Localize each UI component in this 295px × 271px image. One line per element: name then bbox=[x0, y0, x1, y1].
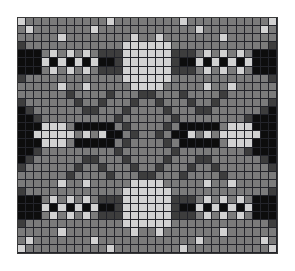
grid-cell bbox=[237, 220, 245, 228]
grid-cell bbox=[220, 50, 228, 58]
grid-cell bbox=[139, 99, 147, 107]
grid-cell bbox=[34, 50, 42, 58]
grid-cell bbox=[204, 164, 212, 172]
grid-cell bbox=[164, 188, 172, 196]
grid-cell bbox=[220, 123, 228, 131]
grid-cell bbox=[269, 237, 277, 245]
grid-cell bbox=[58, 156, 66, 164]
grid-cell bbox=[253, 220, 261, 228]
grid-cell bbox=[212, 107, 220, 115]
grid-cell bbox=[196, 156, 204, 164]
grid-cell bbox=[18, 26, 26, 34]
grid-cell bbox=[139, 18, 147, 26]
grid-cell bbox=[115, 34, 123, 42]
grid-cell bbox=[180, 26, 188, 34]
grid-cell bbox=[50, 180, 58, 188]
grid-cell bbox=[139, 172, 147, 180]
grid-cell bbox=[212, 156, 220, 164]
grid-cell bbox=[26, 99, 34, 107]
grid-cell bbox=[253, 212, 261, 220]
grid-cell bbox=[180, 99, 188, 107]
grid-cell bbox=[148, 172, 156, 180]
grid-cell bbox=[180, 156, 188, 164]
grid-cell bbox=[172, 148, 180, 156]
grid-cell bbox=[237, 164, 245, 172]
grid-cell bbox=[164, 172, 172, 180]
grid-cell bbox=[50, 148, 58, 156]
grid-cell bbox=[58, 115, 66, 123]
grid-cell bbox=[75, 212, 83, 220]
grid-cell bbox=[123, 115, 131, 123]
grid-cell bbox=[253, 115, 261, 123]
grid-cell bbox=[164, 58, 172, 66]
grid-cell bbox=[139, 34, 147, 42]
grid-cell bbox=[115, 220, 123, 228]
grid-cell bbox=[253, 172, 261, 180]
grid-cell bbox=[188, 180, 196, 188]
grid-cell bbox=[148, 164, 156, 172]
grid-cell bbox=[148, 26, 156, 34]
grid-cell bbox=[34, 42, 42, 50]
grid-cell bbox=[107, 220, 115, 228]
grid-cell bbox=[212, 91, 220, 99]
grid-cell bbox=[269, 180, 277, 188]
grid-cell bbox=[245, 180, 253, 188]
grid-cell bbox=[180, 204, 188, 212]
grid-cell bbox=[107, 139, 115, 147]
grid-cell bbox=[156, 123, 164, 131]
grid-cell bbox=[220, 245, 228, 253]
grid-cell bbox=[220, 180, 228, 188]
grid-cell bbox=[83, 42, 91, 50]
grid-cell bbox=[99, 180, 107, 188]
grid-cell bbox=[26, 42, 34, 50]
grid-cell bbox=[83, 180, 91, 188]
grid-cell bbox=[34, 123, 42, 131]
grid-cell bbox=[237, 180, 245, 188]
grid-cell bbox=[115, 180, 123, 188]
grid-cell bbox=[83, 107, 91, 115]
grid-cell bbox=[156, 139, 164, 147]
grid-cell bbox=[156, 67, 164, 75]
grid-cell bbox=[131, 34, 139, 42]
grid-cell bbox=[269, 139, 277, 147]
grid-cell bbox=[58, 50, 66, 58]
grid-cell bbox=[42, 67, 50, 75]
grid-cell bbox=[99, 83, 107, 91]
grid-cell bbox=[18, 50, 26, 58]
grid-cell bbox=[156, 42, 164, 50]
grid-cell bbox=[196, 164, 204, 172]
grid-cell bbox=[58, 148, 66, 156]
grid-cell bbox=[50, 83, 58, 91]
grid-cell bbox=[172, 75, 180, 83]
grid-cell bbox=[91, 204, 99, 212]
grid-cell bbox=[228, 99, 236, 107]
grid-cell bbox=[204, 228, 212, 236]
grid-cell bbox=[83, 156, 91, 164]
grid-cell bbox=[172, 18, 180, 26]
grid-cell bbox=[212, 67, 220, 75]
grid-cell bbox=[115, 91, 123, 99]
grid-cell bbox=[188, 228, 196, 236]
grid-cell bbox=[131, 148, 139, 156]
grid-cell bbox=[156, 196, 164, 204]
grid-cell bbox=[131, 212, 139, 220]
grid-cell bbox=[58, 107, 66, 115]
grid-cell bbox=[172, 237, 180, 245]
grid-cell bbox=[91, 75, 99, 83]
grid-cell bbox=[245, 148, 253, 156]
grid-cell bbox=[148, 58, 156, 66]
grid-cell bbox=[269, 99, 277, 107]
grid-cell bbox=[123, 164, 131, 172]
grid-cell bbox=[131, 58, 139, 66]
grid-cell bbox=[26, 58, 34, 66]
grid-cell bbox=[50, 245, 58, 253]
grid-cell bbox=[204, 204, 212, 212]
grid-cell bbox=[156, 83, 164, 91]
grid-cell bbox=[115, 196, 123, 204]
grid-cell bbox=[18, 131, 26, 139]
grid-cell bbox=[148, 220, 156, 228]
grid-cell bbox=[172, 139, 180, 147]
grid-cell bbox=[75, 83, 83, 91]
grid-cell bbox=[107, 107, 115, 115]
grid-cell bbox=[212, 115, 220, 123]
